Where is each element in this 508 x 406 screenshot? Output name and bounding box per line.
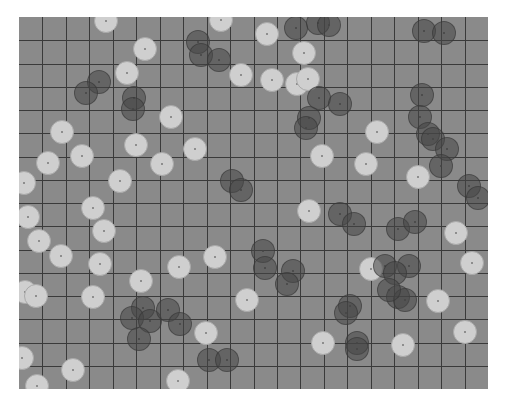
dark-stone[interactable] [410,83,434,107]
light-stone[interactable] [166,369,190,389]
stone-center-dot-icon [423,30,425,32]
light-stone[interactable] [183,137,207,161]
light-stone[interactable] [255,22,279,46]
stone-center-dot-icon [205,332,207,334]
stone-center-dot-icon [140,280,142,282]
stone-center-dot-icon [60,255,62,257]
dark-stone[interactable] [294,116,318,140]
light-stone[interactable] [133,37,157,61]
dark-stone[interactable] [168,312,192,336]
dark-stone[interactable] [403,210,427,234]
dark-stone[interactable] [345,337,369,361]
light-stone[interactable] [229,63,253,87]
stone-center-dot-icon [177,380,179,382]
stone-center-dot-icon [135,144,137,146]
light-stone[interactable] [81,285,105,309]
stone-center-dot-icon [179,323,181,325]
stone-center-dot-icon [246,299,248,301]
light-stone[interactable] [129,269,153,293]
stone-center-dot-icon [397,228,399,230]
stone-center-dot-icon [21,357,23,359]
stone-center-dot-icon [417,176,419,178]
dark-stone[interactable] [377,278,401,302]
light-stone[interactable] [203,245,227,269]
light-stone[interactable] [354,152,378,176]
light-stone[interactable] [194,321,218,345]
stone-center-dot-icon [432,138,434,140]
dark-stone[interactable] [229,178,253,202]
light-stone[interactable] [297,199,321,223]
stone-center-dot-icon [292,270,294,272]
light-stone[interactable] [406,165,430,189]
dark-stone[interactable] [121,97,145,121]
stone-center-dot-icon [370,268,372,270]
dark-stone[interactable] [429,154,453,178]
stone-center-dot-icon [126,72,128,74]
light-stone[interactable] [61,358,85,382]
stone-center-dot-icon [214,256,216,258]
light-stone[interactable] [426,289,450,313]
stone-center-dot-icon [455,232,457,234]
dark-stone[interactable] [466,186,488,210]
light-stone[interactable] [50,120,74,144]
light-stone[interactable] [36,151,60,175]
dark-stone[interactable] [328,92,352,116]
light-stone[interactable] [391,333,415,357]
light-stone[interactable] [27,229,51,253]
stone-center-dot-icon [47,162,49,164]
dark-stone[interactable] [207,48,231,72]
dark-stone[interactable] [284,17,308,40]
light-stone[interactable] [92,219,116,243]
stone-center-dot-icon [92,296,94,298]
dark-stone[interactable] [342,212,366,236]
light-stone[interactable] [88,252,112,276]
light-stone[interactable] [460,251,484,275]
stone-center-dot-icon [446,148,448,150]
stone-center-dot-icon [266,33,268,35]
light-stone[interactable] [24,284,48,308]
stone-center-dot-icon [85,92,87,94]
dark-stone[interactable] [74,81,98,105]
stone-center-dot-icon [138,338,140,340]
stone-center-dot-icon [61,131,63,133]
stone-center-dot-icon [264,267,266,269]
stone-center-dot-icon [321,155,323,157]
light-stone[interactable] [108,169,132,193]
stone-center-dot-icon [477,197,479,199]
light-stone[interactable] [115,61,139,85]
stone-center-dot-icon [339,213,341,215]
dark-stone[interactable] [253,256,277,280]
stone-center-dot-icon [99,263,101,265]
light-stone[interactable] [124,133,148,157]
light-stone[interactable] [235,288,259,312]
dark-stone[interactable] [432,21,456,45]
light-stone[interactable] [70,144,94,168]
light-stone[interactable] [453,320,477,344]
stone-center-dot-icon [131,317,133,319]
light-stone[interactable] [150,152,174,176]
dark-stone[interactable] [334,301,358,325]
stone-center-dot-icon [170,116,172,118]
dark-stone[interactable] [127,327,151,351]
light-stone[interactable] [310,144,334,168]
stone-center-dot-icon [388,289,390,291]
light-stone[interactable] [365,120,389,144]
light-stone[interactable] [81,196,105,220]
stone-center-dot-icon [328,24,330,26]
dark-stone[interactable] [275,272,299,296]
light-stone[interactable] [444,221,468,245]
light-stone[interactable] [159,105,183,129]
light-stone[interactable] [260,68,284,92]
stone-center-dot-icon [35,295,37,297]
stone-center-dot-icon [36,385,38,387]
light-stone[interactable] [311,331,335,355]
stone-center-dot-icon [27,216,29,218]
light-stone[interactable] [49,244,73,268]
light-stone[interactable] [167,255,191,279]
stone-center-dot-icon [345,312,347,314]
light-stone[interactable] [292,41,316,65]
dark-stone[interactable] [215,348,239,372]
game-board[interactable] [19,17,488,389]
stone-center-dot-icon [414,221,416,223]
stone-center-dot-icon [194,148,196,150]
